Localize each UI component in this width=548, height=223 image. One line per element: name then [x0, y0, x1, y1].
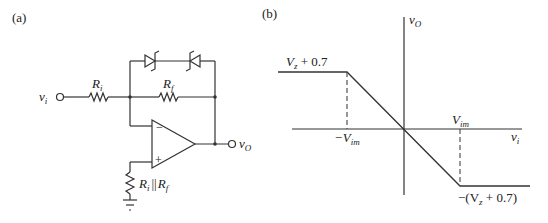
y-axis-label: vO	[409, 12, 422, 29]
panel-label-b: (b)	[262, 6, 277, 21]
circuit-diagram: (a) vi Ri Rf	[12, 10, 252, 210]
pos-break-label: Vim	[452, 112, 469, 129]
output-terminal	[229, 141, 236, 148]
resistor-ri	[89, 93, 108, 101]
lower-level-label: −(Vz + 0.7)	[458, 190, 517, 207]
ri-label: Ri	[91, 76, 103, 93]
input-label: vi	[39, 89, 48, 106]
opamp-plus-sign: +	[155, 153, 162, 167]
resistor-rf	[159, 93, 178, 101]
upper-level-label: Vz + 0.7	[286, 54, 328, 71]
output-label: vO	[239, 136, 252, 153]
opamp-minus-sign: −	[156, 120, 163, 134]
junction-node-output	[213, 142, 217, 146]
rf-label: Rf	[162, 76, 175, 93]
transfer-characteristic-plot: (b) vO vi Vz + 0.7 −Vim Vim −(Vz + 0.7)	[262, 6, 530, 207]
resistor-bias	[126, 172, 134, 194]
input-terminal	[57, 94, 64, 101]
panel-label-a: (a)	[12, 10, 26, 25]
neg-break-label: −Vim	[334, 130, 360, 147]
figure-canvas: (a) vi Ri Rf	[0, 0, 548, 223]
rbias-label: Ri||Rf	[138, 176, 170, 193]
ground-icon	[123, 200, 137, 210]
x-axis-label: vi	[511, 129, 520, 146]
